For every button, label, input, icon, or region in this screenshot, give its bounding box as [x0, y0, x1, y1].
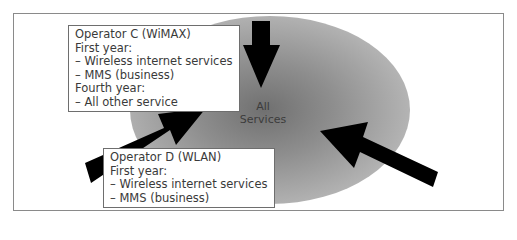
operator-c-title: Operator C (WiMAX)	[75, 28, 233, 42]
operator-c-line: Fourth year:	[75, 82, 233, 96]
operator-c-line: – Wireless internet services	[75, 55, 233, 69]
operator-d-title: Operator D (WLAN)	[110, 151, 268, 165]
operator-d-box: Operator D (WLAN) First year: – Wireless…	[103, 148, 275, 208]
operator-d-line: First year:	[110, 165, 268, 179]
operator-c-line: – MMS (business)	[75, 69, 233, 83]
operator-c-line: – All other service	[75, 96, 233, 110]
center-label-line2: Services	[238, 114, 288, 127]
operator-d-line: – Wireless internet services	[110, 178, 268, 192]
operator-d-line: – MMS (business)	[110, 192, 268, 206]
operator-c-box: Operator C (WiMAX) First year: – Wireles…	[68, 25, 240, 112]
operator-c-line: First year:	[75, 42, 233, 56]
all-services-label: All Services	[238, 101, 288, 126]
center-label-line1: All	[238, 101, 288, 114]
